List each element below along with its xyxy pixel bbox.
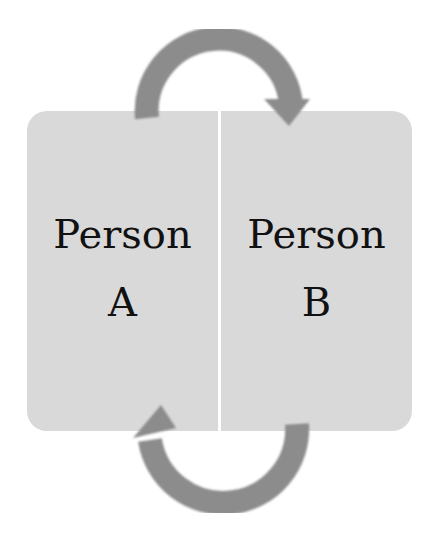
person-a-box: Person A — [27, 111, 218, 431]
diagram-canvas: Person A Person B — [0, 0, 437, 537]
person-a-label-line1: Person — [53, 204, 191, 264]
person-b-label-line2: B — [302, 272, 331, 332]
person-b-label-line1: Person — [247, 204, 385, 264]
person-b-box: Person B — [221, 111, 412, 431]
person-a-label-line2: A — [108, 272, 137, 332]
